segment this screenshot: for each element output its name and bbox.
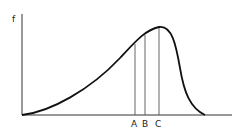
marker-label-a: A <box>131 119 138 129</box>
distribution-curve <box>22 27 205 115</box>
marker-label-b: B <box>142 119 148 129</box>
y-axis-label: f <box>12 14 16 24</box>
marker-label-c: C <box>155 119 161 129</box>
distribution-chart: f A B C <box>0 0 244 135</box>
